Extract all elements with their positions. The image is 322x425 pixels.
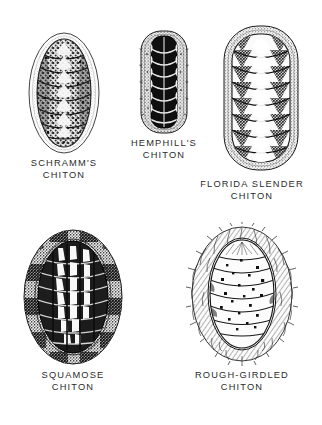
specimen-rough-girdled-chiton xyxy=(186,222,298,366)
specimen-schramms-chiton xyxy=(22,32,106,154)
caption-line: FLORIDA SLENDER xyxy=(186,178,318,190)
caption-line: SQUAMOSE xyxy=(24,369,122,381)
squamose-chiton-drawing xyxy=(22,228,124,366)
caption-schramms-chiton: SCHRAMM'S CHITON xyxy=(10,157,118,182)
chiton-illustration-plate: SCHRAMM'S CHITON xyxy=(0,0,322,425)
schramms-chiton-drawing xyxy=(22,32,106,154)
florida-slender-chiton-drawing xyxy=(222,22,300,174)
caption-line: CHITON xyxy=(116,149,212,161)
specimen-squamose-chiton xyxy=(22,228,124,366)
caption-line: CHITON xyxy=(176,381,308,393)
rough-girdled-chiton-drawing xyxy=(186,222,298,366)
hemphills-chiton-drawing xyxy=(138,28,190,136)
caption-line: HEMPHILL'S xyxy=(116,137,212,149)
caption-line: CHITON xyxy=(24,381,122,393)
specimen-hemphills-chiton xyxy=(138,28,190,136)
specimen-florida-slender-chiton xyxy=(222,22,300,174)
caption-line: ROUGH-GIRDLED xyxy=(176,369,308,381)
caption-hemphills-chiton: HEMPHILL'S CHITON xyxy=(116,137,212,162)
caption-line: CHITON xyxy=(10,169,118,181)
caption-florida-slender-chiton: FLORIDA SLENDER CHITON xyxy=(186,178,318,203)
caption-squamose-chiton: SQUAMOSE CHITON xyxy=(24,369,122,394)
caption-rough-girdled-chiton: ROUGH-GIRDLED CHITON xyxy=(176,369,308,394)
caption-line: SCHRAMM'S xyxy=(10,157,118,169)
caption-line: CHITON xyxy=(186,190,318,202)
